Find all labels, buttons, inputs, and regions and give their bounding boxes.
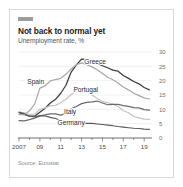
series-label-italy: Italy [64,108,77,116]
y-tick-label: 0 [159,135,163,141]
y-tick-label: 25 [159,64,166,70]
x-tick-label: 11 [58,143,65,150]
line-chart: 0510152025302007091113151719GreeceGreece… [10,46,174,158]
chart-source: Source: Eurostat [18,160,59,166]
x-tick-label: 2007 [12,143,26,150]
y-tick-label: 30 [159,49,166,55]
chart-card: Not back to normal yet Unemployment rate… [9,9,174,178]
y-tick-label: 20 [159,78,166,84]
chart-subtitle: Unemployment rate, % [18,37,84,44]
page-title: Not back to normal yet [18,26,105,36]
series-label-germany: Germany [58,119,86,127]
y-tick-label: 15 [159,92,166,98]
x-tick-label: 13 [78,143,85,150]
series-label-greece: Greece [84,58,106,65]
x-tick-label: 09 [36,143,43,150]
y-tick-label: 10 [159,107,166,113]
y-tick-label: 5 [159,121,163,127]
x-tick-label: 15 [99,143,106,150]
chart-plot-area: 0510152025302007091113151719GreeceGreece… [10,46,174,158]
brand-mark [18,17,33,21]
x-tick-label: 17 [120,143,127,150]
x-tick-label: 19 [141,143,148,150]
series-label-portugal: Portugal [73,86,98,94]
series-label-spain: Spain [27,78,44,86]
